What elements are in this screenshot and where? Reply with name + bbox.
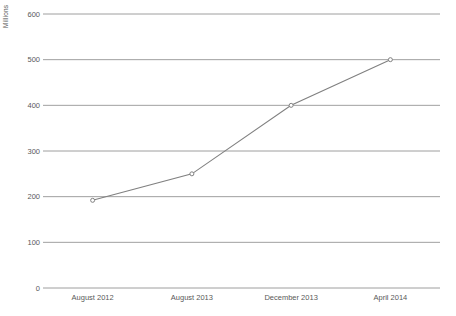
y-axis-tick-label: 200 <box>14 192 40 201</box>
chart-canvas <box>0 0 456 316</box>
y-axis-tick-label: 600 <box>14 10 40 19</box>
y-axis-tick-label: 400 <box>14 101 40 110</box>
y-axis-tick-label: 100 <box>14 238 40 247</box>
x-axis-tick-label: August 2012 <box>43 293 143 302</box>
y-axis-tick-label: 0 <box>14 284 40 293</box>
data-point-marker <box>388 58 392 62</box>
data-point-marker <box>289 103 293 107</box>
data-line-group <box>93 60 391 201</box>
y-axis-tick-label: 500 <box>14 55 40 64</box>
data-point-marker <box>91 198 95 202</box>
x-axis-tick-label: April 2014 <box>340 293 440 302</box>
y-axis-tick-label: 300 <box>14 147 40 156</box>
data-line <box>93 60 391 201</box>
gridline-group <box>43 14 440 288</box>
line-chart: Millions 0100200300400500600 August 2012… <box>0 0 456 316</box>
x-axis-tick-label: August 2013 <box>142 293 242 302</box>
data-point-marker <box>190 172 194 176</box>
x-axis-tick-label: December 2013 <box>241 293 341 302</box>
